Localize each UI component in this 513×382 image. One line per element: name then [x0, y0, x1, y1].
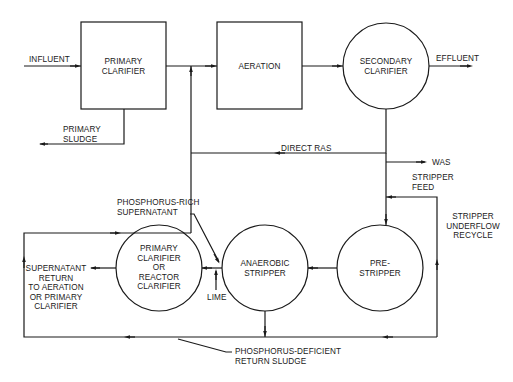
primary-clarifier-label: PRIMARY CLARIFIER [81, 57, 166, 76]
phosphorus-deficient-return-sludge-label: PHOSPHORUS-DEFICIENT RETURN SLUDGE [235, 347, 341, 366]
direct-ras-label: DIRECT RAS [281, 144, 331, 154]
phosphorus-rich-supernatant-label: PHOSPHORUS-RICH SUPERNATANT [117, 198, 199, 217]
anaerobic-stripper-label: ANAEROBIC STRIPPER [222, 259, 308, 278]
stripper-feed-label: STRIPPER FEED [412, 173, 454, 192]
effluent-label: EFFLUENT [436, 54, 479, 64]
pre-stripper-label: PRE- STRIPPER [337, 259, 423, 278]
was-label: WAS [432, 158, 451, 168]
secondary-clarifier-label: SECONDARY CLARIFIER [343, 57, 429, 76]
influent-label: INFLUENT [29, 55, 70, 65]
reactor-clarifier-label: PRIMARY CLARIFIER OR REACTOR CLARIFIER [116, 244, 202, 292]
lime-label: LIME [207, 293, 227, 303]
primary-sludge-label: PRIMARY SLUDGE [63, 125, 101, 144]
stripper-underflow-recycle-label: STRIPPER UNDERFLOW RECYCLE [440, 212, 506, 241]
aeration-label: AERATION [217, 62, 302, 72]
supernatant-return-label: SUPERNATANT RETURN TO AERATION OR PRIMAR… [22, 264, 90, 312]
